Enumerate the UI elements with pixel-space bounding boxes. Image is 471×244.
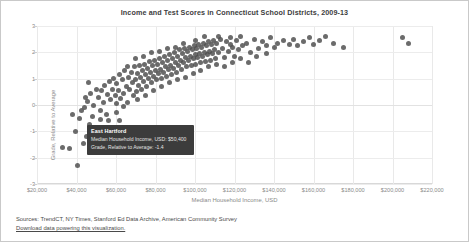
scatter-point[interactable] [295, 43, 300, 48]
scatter-point[interactable] [198, 68, 203, 73]
scatter-point[interactable] [323, 34, 328, 39]
scatter-point[interactable] [90, 114, 95, 119]
scatter-point[interactable] [311, 42, 316, 47]
scatter-point[interactable] [60, 145, 65, 150]
scatter-point[interactable] [206, 64, 211, 69]
scatter-point[interactable] [256, 46, 261, 51]
scatter-point[interactable] [144, 84, 149, 89]
scatter-point[interactable] [264, 51, 269, 56]
scatter-point[interactable] [106, 118, 111, 123]
scatter-point[interactable] [114, 101, 119, 106]
scatter-point[interactable] [127, 87, 132, 92]
scatter-point[interactable] [141, 54, 146, 59]
scatter-point[interactable] [248, 50, 253, 55]
scatter-point[interactable] [157, 49, 162, 54]
scatter-point[interactable] [222, 64, 227, 69]
scatter-point[interactable] [135, 97, 140, 102]
scatter-point[interactable] [179, 67, 184, 72]
scatter-point[interactable] [111, 76, 116, 81]
scatter-point[interactable] [287, 42, 292, 47]
scatter-point[interactable] [174, 70, 179, 75]
scatter-point[interactable] [133, 56, 138, 61]
scatter-point[interactable] [173, 45, 178, 50]
scatter-point[interactable] [275, 41, 280, 46]
scatter-point[interactable] [75, 163, 80, 168]
scatter-point[interactable] [191, 71, 196, 76]
scatter-point[interactable] [67, 146, 72, 151]
scatter-point[interactable] [82, 105, 87, 110]
scatter-point[interactable] [228, 42, 233, 47]
scatter-point[interactable] [120, 77, 125, 82]
scatter-point[interactable] [149, 80, 154, 85]
scatter-point[interactable] [238, 56, 243, 61]
scatter-point[interactable] [301, 39, 306, 44]
scatter-point[interactable] [281, 38, 286, 43]
scatter-point[interactable] [291, 37, 296, 42]
scatter-point[interactable] [183, 75, 188, 80]
scatter-point[interactable] [86, 80, 91, 85]
scatter-point[interactable] [121, 104, 126, 109]
scatter-point[interactable] [268, 35, 273, 40]
scatter-point[interactable] [234, 38, 239, 43]
scatter-point[interactable] [165, 46, 170, 51]
scatter-point[interactable] [73, 129, 78, 134]
scatter-point[interactable] [104, 112, 109, 117]
scatter-point[interactable] [102, 83, 107, 88]
scatter-point[interactable] [108, 97, 113, 102]
scatter-point[interactable] [184, 64, 189, 69]
scatter-point[interactable] [77, 116, 82, 121]
scatter-point[interactable] [317, 38, 322, 43]
scatter-point[interactable] [238, 34, 243, 39]
download-data-link[interactable]: Download data powering this visualizatio… [16, 224, 125, 233]
scatter-point[interactable] [118, 96, 123, 101]
scatter-point[interactable] [151, 88, 156, 93]
scatter-point[interactable] [98, 117, 103, 122]
scatter-point[interactable] [117, 72, 122, 77]
scatter-point[interactable] [99, 88, 104, 93]
scatter-point[interactable] [264, 43, 269, 48]
scatter-point[interactable] [307, 35, 312, 40]
scatter-point[interactable] [331, 41, 336, 46]
scatter-point[interactable] [181, 41, 186, 46]
scatter-point[interactable] [400, 35, 405, 40]
scatter-point[interactable] [105, 92, 110, 97]
scatter-point[interactable] [143, 93, 148, 98]
scatter-point[interactable] [246, 60, 251, 65]
scatter-point[interactable] [159, 84, 164, 89]
scatter-point[interactable] [193, 38, 198, 43]
scatter-point[interactable] [214, 62, 219, 67]
scatter-point[interactable] [125, 64, 130, 69]
scatter-point[interactable] [175, 77, 180, 82]
scatter-point[interactable] [341, 45, 346, 50]
scatter-point[interactable] [101, 100, 106, 105]
scatter-point[interactable] [228, 35, 233, 40]
scatter-point[interactable] [406, 41, 411, 46]
scatter-point[interactable] [254, 54, 259, 59]
scatter-point[interactable] [252, 37, 257, 42]
scatter-point[interactable] [98, 108, 103, 113]
scatter-point[interactable] [114, 110, 119, 115]
scatter-point[interactable] [122, 68, 127, 73]
scatter-point[interactable] [114, 81, 119, 86]
scatter-point[interactable] [94, 87, 99, 92]
scatter-point[interactable] [96, 95, 101, 100]
scatter-point[interactable] [121, 91, 126, 96]
scatter-point[interactable] [88, 91, 93, 96]
scatter-point[interactable] [232, 54, 237, 59]
scatter-point[interactable] [220, 46, 225, 51]
scatter-point[interactable] [202, 34, 207, 39]
scatter-point[interactable] [167, 80, 172, 85]
x-axis-tick-label: $220,000 [402, 187, 462, 193]
scatter-point[interactable] [83, 95, 88, 100]
scatter-point[interactable] [117, 118, 122, 123]
scatter-point[interactable] [70, 112, 75, 117]
scatter-point[interactable] [91, 103, 96, 108]
scatter-point[interactable] [213, 56, 218, 61]
scatter-point[interactable] [81, 141, 86, 146]
scatter-point[interactable] [149, 50, 154, 55]
scatter-point[interactable] [129, 70, 134, 75]
scatter-point[interactable] [110, 87, 115, 92]
scatter-point[interactable] [222, 55, 227, 60]
scatter-point[interactable] [244, 41, 249, 46]
scatter-point[interactable] [113, 93, 118, 98]
